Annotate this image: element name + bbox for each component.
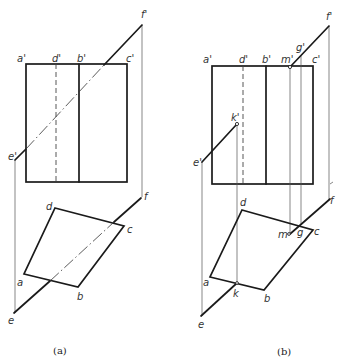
label-d-prime-b: d': [239, 54, 248, 65]
prism-front-view-b: [212, 66, 313, 184]
projection-diagram: a' d' b' c' f' e' d c f a b e (a): [0, 0, 338, 362]
label-a-b: a: [203, 277, 209, 288]
prism-front-view-a: [26, 64, 127, 182]
line-ek-front-b: [202, 124, 237, 162]
label-e-prime-b: e': [193, 157, 202, 168]
label-f-prime: f': [141, 9, 147, 20]
label-c-b: c: [314, 226, 320, 237]
label-c-prime: c': [126, 53, 134, 64]
label-b-b: b: [264, 293, 270, 304]
point-m-prime: [288, 65, 291, 68]
label-g: g: [297, 227, 303, 238]
caption-a: (a): [53, 345, 67, 356]
label-k-prime: k': [231, 112, 240, 123]
line-ef-front-visible-2-a: [104, 25, 142, 65]
label-e: e: [8, 315, 14, 326]
caption-b: (b): [277, 346, 291, 357]
label-c: c: [127, 224, 133, 235]
label-g-prime: g': [296, 42, 305, 53]
label-d: d: [46, 201, 53, 212]
line-ef-top-visible-2-a: [114, 198, 141, 222]
label-a-prime: a': [17, 53, 26, 64]
label-f: f: [144, 191, 149, 202]
plane-top-view-a: [24, 208, 124, 287]
tick-mark: [330, 182, 333, 184]
label-a-prime-b: a': [203, 54, 212, 65]
point-m: [288, 233, 291, 236]
label-a: a: [17, 277, 23, 288]
plane-top-view-b: [210, 210, 313, 290]
label-d-b: d: [240, 197, 247, 208]
label-b-prime: b': [77, 53, 86, 64]
panel-b: a' d' b' m' g' c' f' k' e' d f m g c a k…: [193, 11, 335, 357]
label-b-prime-b: b': [262, 54, 271, 65]
label-c-prime-b: c': [312, 54, 320, 65]
label-b: b: [77, 291, 83, 302]
point-k: [236, 282, 239, 285]
label-f-b: f: [330, 195, 335, 206]
label-m: m: [278, 229, 288, 240]
panel-a: a' d' b' c' f' e' d c f a b e (a): [8, 9, 149, 356]
label-e-prime: e': [8, 151, 17, 162]
line-ef-front-hidden-a: [26, 65, 104, 149]
label-d-prime: d': [52, 53, 61, 64]
diagram-stage: a' d' b' c' f' e' d c f a b e (a): [0, 0, 338, 362]
label-e-b: e: [198, 319, 204, 330]
label-f-prime-b: f': [326, 11, 332, 22]
label-k: k: [233, 288, 240, 299]
label-m-prime: m': [281, 54, 294, 65]
